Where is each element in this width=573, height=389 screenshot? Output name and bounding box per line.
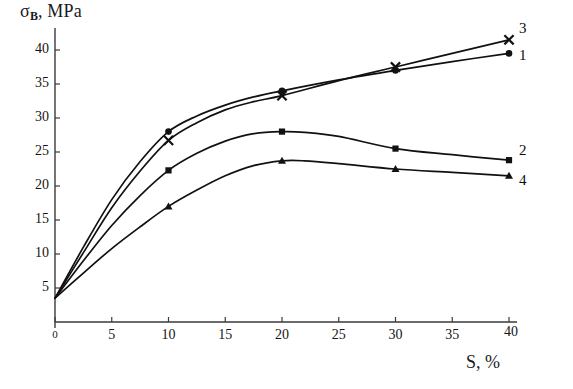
curve-label-3: 3 [519,20,527,37]
x-tick-label: 5 [100,327,124,343]
axes [55,28,517,328]
y-tick-label: 20 [21,177,49,193]
curve-label-2: 2 [519,142,527,159]
marker-square [392,146,398,152]
curve-4 [55,160,509,298]
curve-label-1: 1 [519,47,527,64]
curve-2 [55,131,509,298]
data-markers [164,35,514,209]
marker-square [279,129,285,135]
y-tick-label: 10 [21,245,49,261]
chart-figure: σB, MPa S, % 051015202530354051015202530… [0,0,573,389]
curve-label-4: 4 [519,172,527,189]
x-tick-label: 30 [384,327,408,343]
marker-cross [164,136,173,145]
y-tick-label: 5 [21,279,49,295]
x-tick-label: 15 [213,327,237,343]
y-tick-label: 30 [21,109,49,125]
data-curves [55,40,509,298]
x-tick-label: 20 [270,327,294,343]
marker-circle [165,128,172,135]
x-tick-label: 0 [43,328,67,340]
marker-circle [506,50,513,57]
x-tick-label: 10 [157,327,181,343]
marker-square [506,157,512,163]
marker-triangle [165,202,173,209]
x-tick-label: 40 [499,324,523,340]
y-tick-label: 35 [21,75,49,91]
y-tick-label: 40 [21,41,49,57]
y-tick-label: 15 [21,211,49,227]
x-tick-label: 25 [327,327,351,343]
curve-3 [55,40,509,298]
marker-square [165,167,171,173]
y-tick-label: 25 [21,143,49,159]
x-tick-label: 35 [440,327,464,343]
